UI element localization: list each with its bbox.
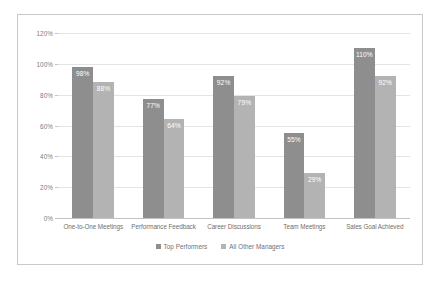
x-axis-category-label: Performance Feedback (128, 223, 198, 230)
y-axis-tick-label: 100% (36, 60, 53, 67)
bar[interactable]: 88% (93, 82, 114, 218)
bar-group: 110%92%Sales Goal Achieved (340, 33, 410, 218)
bar-value-label: 77% (143, 102, 164, 109)
x-axis-category-label: Team Meetings (269, 223, 339, 230)
y-axis-tick-label: 120% (36, 30, 53, 37)
bar-group: 77%64%Performance Feedback (128, 33, 198, 218)
bar[interactable]: 110% (354, 48, 375, 218)
bar-value-label: 110% (354, 51, 375, 58)
bar[interactable]: 92% (213, 76, 234, 218)
bar-value-label: 92% (375, 79, 396, 86)
bar[interactable]: 79% (234, 96, 255, 218)
x-axis-line (58, 218, 410, 219)
legend-item[interactable]: All Other Managers (221, 243, 284, 250)
bar[interactable]: 55% (284, 133, 305, 218)
bar[interactable]: 98% (72, 67, 93, 218)
legend-label: Top Performers (164, 243, 208, 250)
chart-plot-wrapper: 0%20%40%60%80%100%120%98%88%One-to-One M… (18, 15, 422, 264)
bar[interactable]: 29% (304, 173, 325, 218)
bar[interactable]: 77% (143, 99, 164, 218)
chart-legend: Top PerformersAll Other Managers (18, 243, 422, 250)
y-axis-tick-label: 0% (44, 215, 53, 222)
y-axis-tick-label: 80% (40, 91, 53, 98)
bar-group: 92%79%Career Discussions (199, 33, 269, 218)
y-axis-tick-label: 40% (40, 153, 53, 160)
bar-value-label: 79% (234, 99, 255, 106)
legend-label: All Other Managers (229, 243, 284, 250)
bar-value-label: 88% (93, 85, 114, 92)
y-axis-tick-mark (55, 218, 58, 219)
legend-swatch-icon (156, 244, 161, 249)
legend-item[interactable]: Top Performers (156, 243, 208, 250)
bar[interactable]: 64% (164, 119, 185, 218)
bar-value-label: 55% (284, 136, 305, 143)
y-axis-tick-label: 60% (40, 122, 53, 129)
plot-area: 0%20%40%60%80%100%120%98%88%One-to-One M… (58, 33, 410, 218)
x-axis-category-label: One-to-One Meetings (58, 223, 128, 230)
legend-swatch-icon (221, 244, 226, 249)
x-axis-category-label: Sales Goal Achieved (340, 223, 410, 230)
bar-value-label: 98% (72, 70, 93, 77)
bar-group: 98%88%One-to-One Meetings (58, 33, 128, 218)
bar-value-label: 64% (164, 122, 185, 129)
bar-value-label: 92% (213, 79, 234, 86)
x-axis-category-label: Career Discussions (199, 223, 269, 230)
chart-container: 0%20%40%60%80%100%120%98%88%One-to-One M… (17, 14, 423, 265)
bar[interactable]: 92% (375, 76, 396, 218)
y-axis-tick-label: 20% (40, 184, 53, 191)
bar-value-label: 29% (304, 176, 325, 183)
bar-group: 55%29%Team Meetings (269, 33, 339, 218)
